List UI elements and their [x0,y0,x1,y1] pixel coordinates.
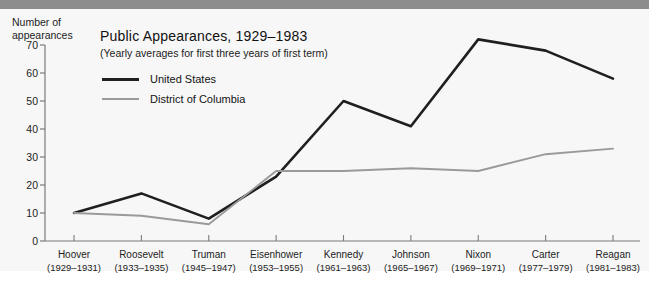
x-category-label: Reagan(1981–1983) [567,249,649,274]
data-series-line [74,39,613,218]
y-tick-label: 20 [14,179,38,191]
plot-area [0,0,649,287]
y-tick-label: 70 [14,39,38,51]
y-tick-label: 10 [14,207,38,219]
y-tick-label: 0 [14,235,38,247]
y-tick-label: 30 [14,151,38,163]
data-series-group [74,39,613,224]
x-category-name: Eisenhower [250,249,302,260]
x-category-years: (1981–1983) [567,262,649,275]
x-category-name: Johnson [392,249,430,260]
x-category-name: Nixon [465,249,491,260]
y-tick-label: 50 [14,95,38,107]
x-category-name: Hoover [58,249,90,260]
y-axis [40,45,45,241]
y-tick-label: 40 [14,123,38,135]
x-axis [45,235,640,241]
x-category-name: Reagan [595,249,630,260]
x-category-name: Kennedy [324,249,363,260]
x-category-name: Carter [532,249,560,260]
y-tick-label: 60 [14,67,38,79]
x-category-name: Truman [192,249,226,260]
x-category-name: Roosevelt [119,249,163,260]
chart-figure: Number of appearances Public Appearances… [0,0,649,287]
data-series-line [74,149,613,225]
